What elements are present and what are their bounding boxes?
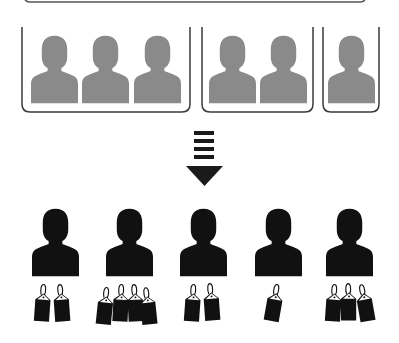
person-icon <box>326 209 373 277</box>
person-icon <box>255 209 302 277</box>
tag-icon <box>354 283 375 322</box>
tags-person-2 <box>96 284 158 325</box>
person-icon <box>180 209 227 277</box>
tags-person-4 <box>264 283 285 322</box>
group-3 <box>323 27 379 112</box>
group-person-icon <box>328 36 375 104</box>
tag-icon <box>184 284 202 322</box>
tags-person-3 <box>184 283 221 322</box>
individual-4 <box>255 209 302 322</box>
group-2 <box>202 27 313 112</box>
tag-icon <box>34 284 52 322</box>
tag-icon <box>264 283 285 322</box>
group-person-icon <box>82 36 129 104</box>
tag-icon <box>341 284 356 321</box>
tag-icon <box>53 284 71 322</box>
tag-icon <box>112 284 129 322</box>
tags-person-1 <box>34 284 71 322</box>
top-bar-frame <box>25 0 365 2</box>
tag-icon <box>325 284 343 322</box>
group-1 <box>22 27 190 112</box>
tags-person-5 <box>325 283 376 322</box>
group-person-icon <box>31 36 78 104</box>
tag-icon <box>203 283 221 321</box>
individual-1 <box>32 209 79 322</box>
tag-icon <box>96 287 115 325</box>
individual-2 <box>96 209 158 325</box>
group-person-icon <box>209 36 256 104</box>
individual-5 <box>325 209 376 323</box>
person-icon <box>32 209 79 277</box>
distribution-diagram <box>0 0 399 343</box>
group-person-icon <box>260 36 307 104</box>
group-person-icon <box>134 36 181 104</box>
down-arrow-icon <box>186 131 223 186</box>
individual-3 <box>180 209 227 322</box>
person-icon <box>106 209 153 277</box>
